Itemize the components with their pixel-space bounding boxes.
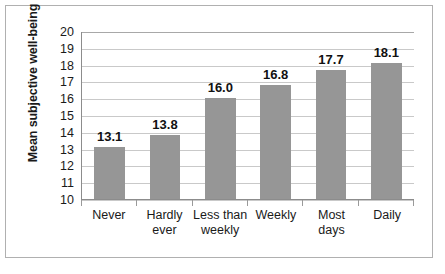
y-axis-tick-label: 18 (50, 60, 74, 72)
y-axis-tick-label: 11 (50, 177, 74, 189)
y-axis-tick-label: 19 (50, 43, 74, 55)
bar-slot: 17.7 (303, 32, 358, 199)
bar-slot: 13.8 (137, 32, 192, 199)
bar[interactable]: 17.7 (316, 70, 346, 199)
y-axis-tick-label: 14 (50, 127, 74, 139)
x-axis-tickmark (247, 200, 248, 206)
bar[interactable]: 16.8 (260, 85, 290, 199)
bar-value-label: 16.8 (263, 67, 288, 82)
bar-value-label: 13.8 (152, 117, 177, 132)
x-axis-tick-labels: NeverHardlyeverLess thanweeklyWeeklyMost… (81, 208, 415, 238)
chart-figure: Mean subjective well-being 2019181716151… (5, 5, 433, 258)
x-axis-tick-label-line: Never (81, 208, 137, 223)
y-axis-tick-label: 13 (50, 144, 74, 156)
bar[interactable]: 13.1 (94, 147, 124, 199)
bars-layer: 13.113.816.016.817.718.1 (82, 32, 414, 199)
bar-slot: 13.1 (82, 32, 137, 199)
x-axis-tick-label: Never (81, 208, 137, 238)
bar[interactable]: 13.8 (150, 135, 180, 199)
x-axis-tick-label-line: weekly (192, 223, 248, 238)
y-axis-title: Mean subjective well-being (26, 0, 40, 168)
x-axis-tickmark (358, 200, 359, 206)
x-axis-tick-label-line: days (304, 223, 360, 238)
x-axis-tickmark (136, 200, 137, 206)
bar-value-label: 13.1 (97, 129, 122, 144)
bar-value-label: 18.1 (374, 45, 399, 60)
bar-value-label: 17.7 (318, 52, 343, 67)
x-axis-tick-label: Hardlyever (137, 208, 193, 238)
bar[interactable]: 18.1 (371, 63, 401, 199)
y-axis-tick-label: 16 (50, 93, 74, 105)
bar-slot: 16.0 (193, 32, 248, 199)
y-axis-tick-label: 20 (50, 26, 74, 38)
x-axis-tick-label-line: Hardly (137, 208, 193, 223)
x-axis-tick-label-line: Weekly (248, 208, 304, 223)
x-axis-tick-label-line: Less than (192, 208, 248, 223)
x-axis-tickmark (192, 200, 193, 206)
bar[interactable]: 16.0 (205, 98, 235, 199)
y-axis-tick-label: 17 (50, 76, 74, 88)
x-axis-tick-label-line: Daily (359, 208, 415, 223)
x-axis-tick-label: Mostdays (304, 208, 360, 238)
bar-slot: 16.8 (248, 32, 303, 199)
x-axis-tickmark (413, 200, 414, 206)
x-axis-tickmark (302, 200, 303, 206)
y-axis-tick-label: 12 (50, 160, 74, 172)
x-axis-tick-label-line: ever (137, 223, 193, 238)
x-axis-tick-label-line: Most (304, 208, 360, 223)
x-axis-tickmark (81, 200, 82, 206)
x-axis-tick-label: Weekly (248, 208, 304, 238)
x-axis-tickmarks (81, 200, 414, 206)
y-axis-tick-labels: 2019181716151413121110 (50, 26, 74, 200)
x-axis-tick-label: Less thanweekly (192, 208, 248, 238)
bar-slot: 18.1 (359, 32, 414, 199)
bar-value-label: 16.0 (208, 80, 233, 95)
x-axis-tick-label: Daily (359, 208, 415, 238)
plot-area: 13.113.816.016.817.718.1 (81, 32, 414, 200)
y-axis-tick-label: 10 (50, 194, 74, 206)
y-axis-tick-label: 15 (50, 110, 74, 122)
